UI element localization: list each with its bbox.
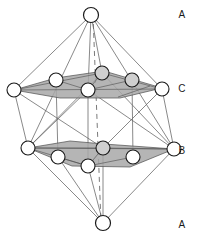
atom-C1	[7, 83, 21, 97]
atom-B3	[96, 141, 110, 155]
atom-B2	[51, 150, 65, 164]
label-bottom-apex-A: A	[179, 219, 186, 230]
label-lower-plane-B: B	[179, 145, 186, 156]
atom-C4	[125, 73, 139, 87]
atom-A-top	[84, 8, 99, 23]
atom-B4	[126, 150, 140, 164]
label-top-apex-A: A	[179, 9, 186, 20]
atom-B6	[81, 159, 95, 173]
atom-C5	[155, 82, 169, 96]
edge-Abot-B2	[58, 157, 103, 223]
atom-C3	[95, 66, 109, 80]
atom-A-bottom	[96, 216, 111, 231]
structure-svg: A C B A	[0, 0, 202, 238]
edge-C1-B1	[14, 90, 28, 148]
label-upper-plane-C: C	[178, 83, 185, 94]
edge-C6-B5	[88, 90, 174, 149]
edge-C6-B1	[28, 90, 88, 148]
atom-C2	[49, 73, 63, 87]
atoms-layer-A	[84, 8, 111, 231]
crystal-structure-figure: A C B A	[0, 0, 202, 238]
atom-C6	[81, 83, 95, 97]
atom-B1	[21, 141, 35, 155]
